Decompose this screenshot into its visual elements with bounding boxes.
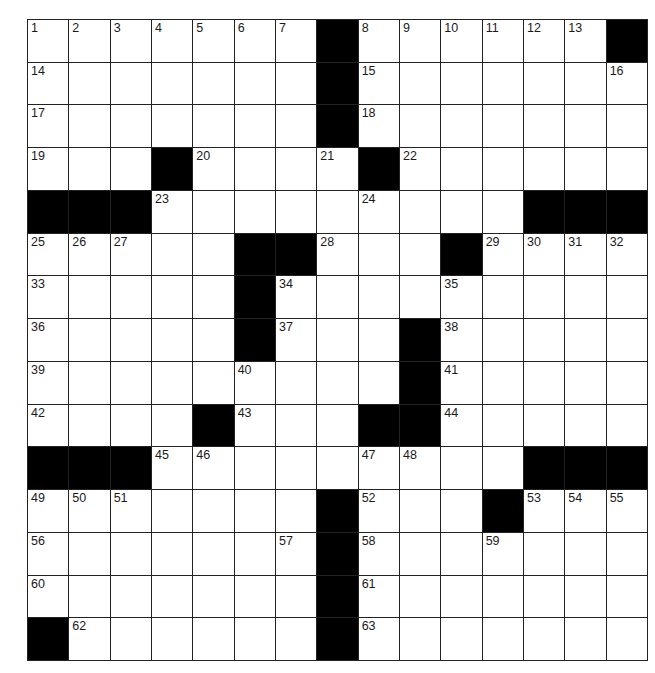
grid-cell[interactable]: [276, 405, 316, 447]
grid-cell[interactable]: [607, 576, 647, 618]
grid-cell[interactable]: [317, 319, 357, 361]
grid-cell[interactable]: 41: [441, 362, 481, 404]
grid-cell[interactable]: 9: [400, 20, 440, 62]
grid-cell[interactable]: [193, 276, 233, 318]
grid-cell[interactable]: [235, 105, 275, 147]
grid-cell[interactable]: [193, 319, 233, 361]
grid-cell[interactable]: [111, 105, 151, 147]
grid-cell[interactable]: [565, 618, 605, 660]
grid-cell[interactable]: [524, 618, 564, 660]
grid-cell[interactable]: [152, 319, 192, 361]
grid-cell[interactable]: [400, 63, 440, 105]
grid-cell[interactable]: [400, 276, 440, 318]
grid-cell[interactable]: [483, 105, 523, 147]
grid-cell[interactable]: 36: [28, 319, 68, 361]
grid-cell[interactable]: [152, 618, 192, 660]
grid-cell[interactable]: [69, 405, 109, 447]
grid-cell[interactable]: [565, 533, 605, 575]
grid-cell[interactable]: [152, 490, 192, 532]
grid-cell[interactable]: [483, 191, 523, 233]
grid-cell[interactable]: [483, 618, 523, 660]
grid-cell[interactable]: [607, 362, 647, 404]
grid-cell[interactable]: 15: [359, 63, 399, 105]
grid-cell[interactable]: 18: [359, 105, 399, 147]
grid-cell[interactable]: [152, 533, 192, 575]
grid-cell[interactable]: 35: [441, 276, 481, 318]
grid-cell[interactable]: [317, 405, 357, 447]
grid-cell[interactable]: 25: [28, 234, 68, 276]
grid-cell[interactable]: [111, 148, 151, 190]
grid-cell[interactable]: 33: [28, 276, 68, 318]
grid-cell[interactable]: 56: [28, 533, 68, 575]
grid-cell[interactable]: [193, 191, 233, 233]
grid-cell[interactable]: [524, 319, 564, 361]
grid-cell[interactable]: 3: [111, 20, 151, 62]
grid-cell[interactable]: [565, 405, 605, 447]
grid-cell[interactable]: 13: [565, 20, 605, 62]
grid-cell[interactable]: [524, 533, 564, 575]
grid-cell[interactable]: [565, 63, 605, 105]
grid-cell[interactable]: [607, 148, 647, 190]
grid-cell[interactable]: [565, 148, 605, 190]
grid-cell[interactable]: [276, 576, 316, 618]
grid-cell[interactable]: 44: [441, 405, 481, 447]
grid-cell[interactable]: [483, 63, 523, 105]
grid-cell[interactable]: 63: [359, 618, 399, 660]
grid-cell[interactable]: 47: [359, 447, 399, 489]
grid-cell[interactable]: [111, 319, 151, 361]
grid-cell[interactable]: 54: [565, 490, 605, 532]
grid-cell[interactable]: [235, 63, 275, 105]
grid-cell[interactable]: [235, 191, 275, 233]
grid-cell[interactable]: 26: [69, 234, 109, 276]
grid-cell[interactable]: 27: [111, 234, 151, 276]
grid-cell[interactable]: [193, 362, 233, 404]
grid-cell[interactable]: 5: [193, 20, 233, 62]
grid-cell[interactable]: 53: [524, 490, 564, 532]
grid-cell[interactable]: [483, 319, 523, 361]
grid-cell[interactable]: 8: [359, 20, 399, 62]
grid-cell[interactable]: [524, 148, 564, 190]
grid-cell[interactable]: [607, 533, 647, 575]
grid-cell[interactable]: [193, 63, 233, 105]
grid-cell[interactable]: [524, 105, 564, 147]
grid-cell[interactable]: [400, 533, 440, 575]
grid-cell[interactable]: 14: [28, 63, 68, 105]
grid-cell[interactable]: [235, 576, 275, 618]
grid-cell[interactable]: 48: [400, 447, 440, 489]
grid-cell[interactable]: [111, 63, 151, 105]
grid-cell[interactable]: [317, 447, 357, 489]
grid-cell[interactable]: [69, 533, 109, 575]
grid-cell[interactable]: 57: [276, 533, 316, 575]
grid-cell[interactable]: [69, 319, 109, 361]
grid-cell[interactable]: [565, 105, 605, 147]
grid-cell[interactable]: [276, 191, 316, 233]
grid-cell[interactable]: [276, 362, 316, 404]
grid-cell[interactable]: 60: [28, 576, 68, 618]
grid-cell[interactable]: [69, 63, 109, 105]
grid-cell[interactable]: 17: [28, 105, 68, 147]
grid-cell[interactable]: 43: [235, 405, 275, 447]
grid-cell[interactable]: 24: [359, 191, 399, 233]
grid-cell[interactable]: [400, 490, 440, 532]
grid-cell[interactable]: [483, 148, 523, 190]
grid-cell[interactable]: [193, 576, 233, 618]
grid-cell[interactable]: [607, 405, 647, 447]
grid-cell[interactable]: 19: [28, 148, 68, 190]
grid-cell[interactable]: 34: [276, 276, 316, 318]
grid-cell[interactable]: [524, 405, 564, 447]
grid-cell[interactable]: [317, 362, 357, 404]
grid-cell[interactable]: 37: [276, 319, 316, 361]
grid-cell[interactable]: [607, 105, 647, 147]
grid-cell[interactable]: [235, 447, 275, 489]
grid-cell[interactable]: 2: [69, 20, 109, 62]
grid-cell[interactable]: 59: [483, 533, 523, 575]
grid-cell[interactable]: [193, 533, 233, 575]
grid-cell[interactable]: 38: [441, 319, 481, 361]
grid-cell[interactable]: [152, 405, 192, 447]
grid-cell[interactable]: [276, 148, 316, 190]
grid-cell[interactable]: [607, 319, 647, 361]
grid-cell[interactable]: [524, 576, 564, 618]
grid-cell[interactable]: [524, 276, 564, 318]
grid-cell[interactable]: [359, 276, 399, 318]
grid-cell[interactable]: 40: [235, 362, 275, 404]
